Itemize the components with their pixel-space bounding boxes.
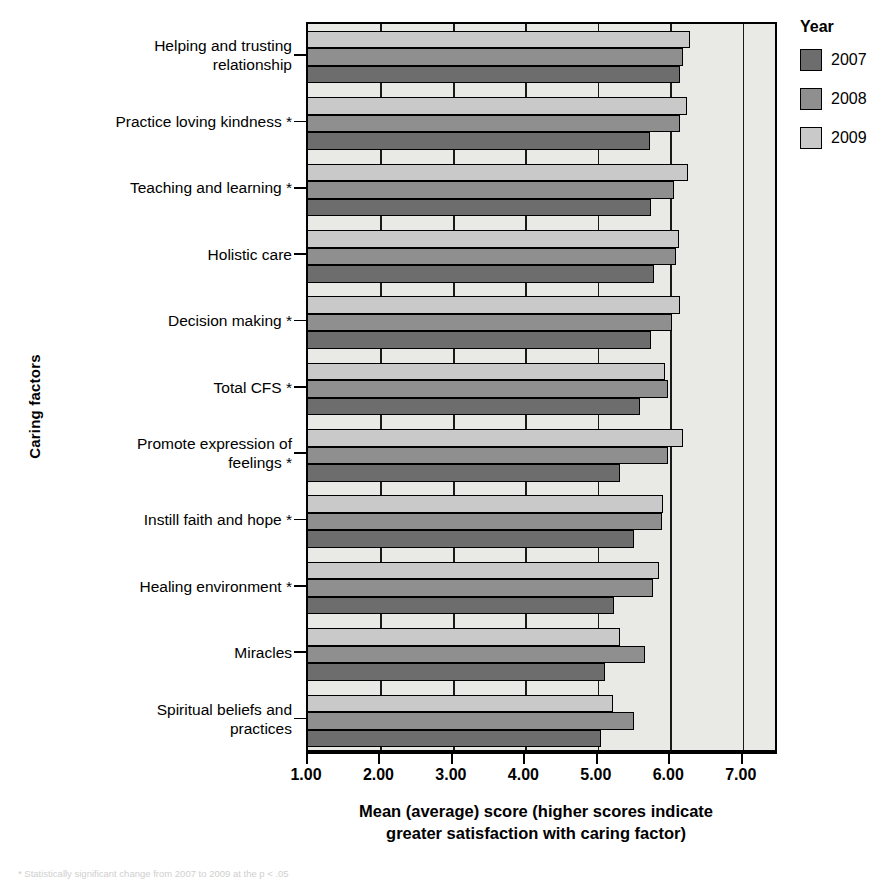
bar-2007-3 (307, 199, 651, 217)
bar-2008-5 (307, 314, 672, 332)
x-tick-label-5.00: 5.00 (561, 766, 631, 784)
bar-2009-5 (307, 296, 680, 314)
bar-2009-9 (307, 562, 659, 580)
y-axis-label-7-line1: Promote expression of (30, 434, 292, 453)
bar-2007-9 (307, 597, 614, 615)
bar-2008-3 (307, 181, 674, 199)
y-axis-label-4: Holistic care (30, 245, 292, 264)
x-tick-label-6.00: 6.00 (633, 766, 703, 784)
y-axis-label-1-line2: relationship (30, 55, 292, 74)
y-axis-tick-11 (294, 718, 306, 720)
y-axis-label-11-line2: practices (30, 719, 292, 738)
y-axis-label-7: Promote expression offeelings * (30, 434, 292, 472)
legend-swatch-2008 (800, 88, 822, 110)
y-axis-tick-10 (294, 651, 306, 653)
x-tick-label-3.00: 3.00 (416, 766, 486, 784)
y-axis-tick-8 (294, 519, 306, 521)
x-tick-3.00 (451, 752, 453, 764)
bar-2008-6 (307, 380, 668, 398)
y-axis-tick-9 (294, 585, 306, 587)
bar-2008-2 (307, 115, 680, 133)
legend-label-2007: 2007 (831, 51, 867, 69)
y-axis-label-8-line1: Instill faith and hope * (30, 510, 292, 529)
bar-2007-1 (307, 66, 680, 84)
gridline-6.00 (670, 24, 672, 750)
bar-2007-11 (307, 730, 601, 748)
y-axis-label-3: Teaching and learning * (30, 178, 292, 197)
x-tick-7.00 (741, 752, 743, 764)
x-axis-title-line1: Mean (average) score (higher scores indi… (186, 800, 886, 822)
legend: Year 200720082009 (800, 18, 886, 166)
bar-2009-4 (307, 230, 679, 248)
y-axis-category-labels: Helping and trustingrelationshipPractice… (30, 22, 292, 752)
y-axis-label-4-line1: Holistic care (30, 245, 292, 264)
figure-caption: * Statistically significant change from … (18, 868, 878, 879)
legend-title: Year (800, 18, 886, 36)
x-tick-5.00 (596, 752, 598, 764)
y-axis-tick-7 (294, 452, 306, 454)
bar-2008-7 (307, 447, 668, 465)
x-tick-label-2.00: 2.00 (343, 766, 413, 784)
x-tick-4.00 (523, 752, 525, 764)
y-axis-label-7-line2: feelings * (30, 453, 292, 472)
x-tick-2.00 (378, 752, 380, 764)
bar-2009-10 (307, 628, 620, 646)
bar-2009-7 (307, 429, 683, 447)
y-axis-label-2-line1: Practice loving kindness * (30, 112, 292, 131)
y-axis-label-8: Instill faith and hope * (30, 510, 292, 529)
y-axis-label-1: Helping and trustingrelationship (30, 36, 292, 74)
y-axis-label-5-line1: Decision making * (30, 311, 292, 330)
y-axis-label-11-line1: Spiritual beliefs and (30, 700, 292, 719)
bar-2008-11 (307, 712, 634, 730)
y-axis-tick-5 (294, 320, 306, 322)
bar-2008-10 (307, 646, 645, 664)
y-axis-label-10: Miracles (30, 643, 292, 662)
y-axis-label-10-line1: Miracles (30, 643, 292, 662)
gridline-7.00 (743, 24, 745, 750)
bar-2007-2 (307, 132, 650, 150)
legend-label-2009: 2009 (831, 129, 867, 147)
y-axis-label-1-line1: Helping and trusting (30, 36, 292, 55)
y-axis-tick-2 (294, 121, 306, 123)
x-axis-title: Mean (average) score (higher scores indi… (186, 800, 886, 844)
legend-swatch-2007 (800, 49, 822, 71)
y-axis-label-9-line1: Healing environment * (30, 577, 292, 596)
y-axis-label-2: Practice loving kindness * (30, 112, 292, 131)
y-axis-tick-3 (294, 187, 306, 189)
x-tick-1.00 (306, 752, 308, 764)
y-axis-tick-4 (294, 253, 306, 255)
x-axis-title-line2: greater satisfaction with caring factor) (186, 822, 886, 844)
y-axis-label-11: Spiritual beliefs andpractices (30, 700, 292, 738)
y-axis-label-6: Total CFS * (30, 378, 292, 397)
bar-2007-8 (307, 530, 634, 548)
legend-item-2008[interactable]: 2008 (800, 88, 886, 110)
bar-2008-8 (307, 513, 662, 531)
bar-2009-11 (307, 695, 613, 713)
y-axis-tick-6 (294, 386, 306, 388)
bar-2008-1 (307, 48, 683, 66)
bar-2008-9 (307, 579, 653, 597)
bar-2007-4 (307, 265, 654, 283)
bar-2007-5 (307, 331, 651, 349)
y-axis-label-9: Healing environment * (30, 577, 292, 596)
bar-2009-8 (307, 495, 663, 513)
x-tick-label-7.00: 7.00 (706, 766, 776, 784)
legend-label-2008: 2008 (831, 90, 867, 108)
y-axis-label-5: Decision making * (30, 311, 292, 330)
bar-2009-3 (307, 164, 688, 182)
x-tick-label-4.00: 4.00 (488, 766, 558, 784)
x-tick-6.00 (668, 752, 670, 764)
y-axis-label-6-line1: Total CFS * (30, 378, 292, 397)
bar-2009-6 (307, 363, 665, 381)
bar-2007-7 (307, 464, 620, 482)
bar-2007-10 (307, 663, 605, 681)
bar-2009-1 (307, 31, 690, 49)
bar-2007-6 (307, 398, 640, 416)
bar-chart-figure: Caring factors Helping and trustingrelat… (0, 0, 886, 887)
x-axis-line (306, 752, 777, 754)
y-axis-tick-1 (294, 54, 306, 56)
bar-2008-4 (307, 248, 676, 266)
legend-item-2007[interactable]: 2007 (800, 49, 886, 71)
legend-item-2009[interactable]: 2009 (800, 127, 886, 149)
legend-swatch-2009 (800, 127, 822, 149)
